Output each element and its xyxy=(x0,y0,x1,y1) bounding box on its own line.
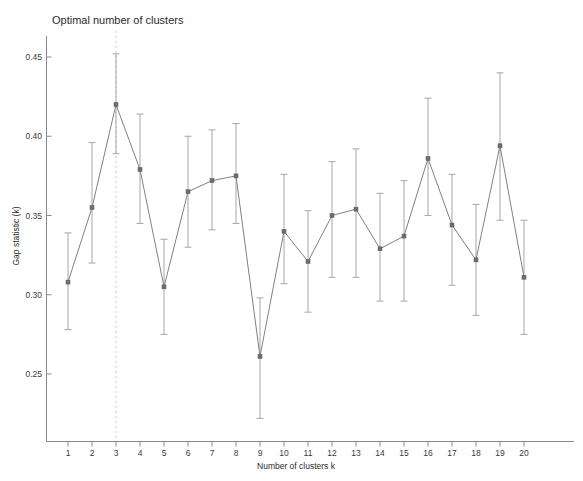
data-point-marker xyxy=(282,229,286,233)
x-tick-label: 14 xyxy=(375,448,385,458)
gap-statistic-chart-figure: Optimal number of clusters Gap statistic… xyxy=(0,0,583,481)
x-tick-label: 15 xyxy=(399,448,409,458)
y-axis-title: Gap statistic (k) xyxy=(11,206,21,265)
x-tick-label: 20 xyxy=(519,448,529,458)
x-tick-label: 10 xyxy=(279,448,289,458)
y-tick-label: 0.40 xyxy=(25,131,42,141)
data-point-marker xyxy=(234,174,238,178)
data-point-marker xyxy=(90,206,94,210)
x-axis-title: Number of clusters k xyxy=(257,461,336,471)
y-tick-label: 0.25 xyxy=(25,369,42,379)
x-tick-label: 12 xyxy=(327,448,337,458)
data-point-marker xyxy=(354,207,358,211)
data-point-marker xyxy=(402,234,406,238)
data-point-marker xyxy=(186,190,190,194)
data-point-marker xyxy=(306,259,310,263)
x-tick-label: 6 xyxy=(186,448,191,458)
x-tick-label: 7 xyxy=(210,448,215,458)
x-tick-label: 8 xyxy=(234,448,239,458)
gap-statistic-line xyxy=(68,105,524,357)
y-tick-label: 0.30 xyxy=(25,290,42,300)
y-axis-ticks: 0.450.400.350.300.25 xyxy=(25,52,51,379)
x-axis-ticks: 1234567891011121314151617181920 xyxy=(66,442,529,459)
data-point-marker xyxy=(330,214,334,218)
x-tick-label: 4 xyxy=(138,448,143,458)
x-tick-label: 5 xyxy=(162,448,167,458)
x-tick-label: 17 xyxy=(447,448,457,458)
data-point-marker xyxy=(258,355,262,359)
error-bars-group xyxy=(65,54,528,419)
series-polyline xyxy=(68,105,524,357)
data-point-marker xyxy=(162,285,166,289)
gap-statistic-points xyxy=(66,103,526,359)
y-tick-label: 0.35 xyxy=(25,211,42,221)
x-tick-label: 11 xyxy=(304,448,313,458)
x-tick-label: 2 xyxy=(90,448,95,458)
data-point-marker xyxy=(114,103,118,107)
data-point-marker xyxy=(450,223,454,227)
x-tick-label: 3 xyxy=(114,448,119,458)
data-point-marker xyxy=(378,247,382,251)
data-point-marker xyxy=(138,168,142,172)
data-point-marker xyxy=(210,179,214,183)
data-point-marker xyxy=(426,156,430,160)
data-point-marker xyxy=(474,258,478,262)
x-tick-label: 16 xyxy=(423,448,433,458)
data-point-marker xyxy=(498,144,502,148)
x-tick-label: 1 xyxy=(66,448,71,458)
chart-canvas: Optimal number of clusters Gap statistic… xyxy=(0,0,583,481)
x-tick-label: 9 xyxy=(258,448,263,458)
y-tick-label: 0.45 xyxy=(25,52,42,62)
data-point-marker xyxy=(66,280,70,284)
x-tick-label: 13 xyxy=(351,448,361,458)
chart-title: Optimal number of clusters xyxy=(52,14,184,26)
x-tick-label: 18 xyxy=(471,448,481,458)
data-point-marker xyxy=(522,275,526,279)
x-tick-label: 19 xyxy=(495,448,505,458)
